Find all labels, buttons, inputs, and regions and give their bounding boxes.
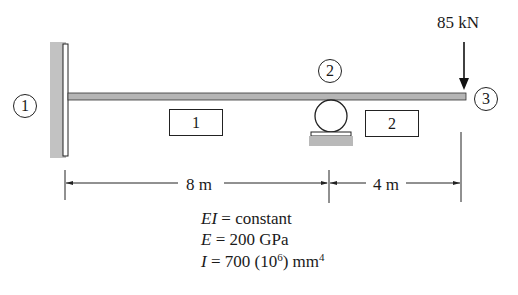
node-2-label: 2 xyxy=(318,59,342,83)
dimension-4m: 4 m xyxy=(373,176,399,193)
node-1-label: 1 xyxy=(13,94,37,118)
roller-plate xyxy=(311,132,351,136)
arrow-down-icon xyxy=(459,78,469,90)
element-1-label: 1 xyxy=(169,109,223,136)
beam-drawing xyxy=(0,0,518,295)
beam xyxy=(68,93,466,100)
ground-hatch xyxy=(309,136,353,146)
property-ei: EI = constant xyxy=(201,210,292,227)
node-3-label: 3 xyxy=(474,87,498,111)
property-e: E = 200 GPa xyxy=(201,231,289,248)
roller-icon xyxy=(315,100,347,132)
property-i: I = 700 (106) mm4 xyxy=(201,253,325,270)
wall-plate xyxy=(63,44,68,156)
dimension-8m: 8 m xyxy=(186,176,212,193)
element-2-label: 2 xyxy=(365,110,419,137)
load-label: 85 kN xyxy=(437,14,479,31)
beam-diagram: 1 2 3 1 2 85 kN 8 m 4 m EI = constant E … xyxy=(0,0,518,295)
